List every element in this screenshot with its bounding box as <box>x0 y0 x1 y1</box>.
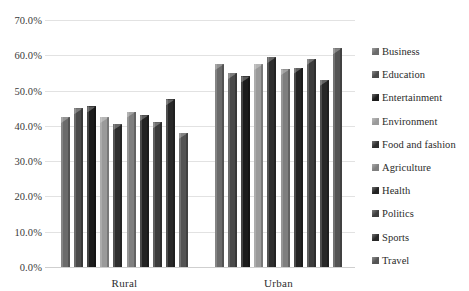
bar-group-urban: Urban <box>213 20 344 267</box>
bar <box>267 57 276 267</box>
legend-label: Agriculture <box>382 162 431 173</box>
legend-label: Education <box>382 69 425 80</box>
legend-swatch-icon <box>372 187 379 194</box>
bars <box>213 20 344 267</box>
y-axis-tick-label: 70.0% <box>14 15 42 26</box>
legend-label: Food and fashion <box>382 139 456 150</box>
bar <box>87 106 96 267</box>
legend-swatch-icon <box>372 257 379 264</box>
bar <box>307 59 316 267</box>
legend-item[interactable]: Education <box>372 63 469 86</box>
legend-item[interactable]: Entertainment <box>372 86 469 109</box>
bar <box>61 117 70 267</box>
bar <box>100 117 109 267</box>
legend-swatch-icon <box>372 71 379 78</box>
bar <box>179 133 188 267</box>
bar <box>294 68 303 267</box>
legend-swatch-icon <box>372 164 379 171</box>
y-axis-tick-label: 10.0% <box>14 226 42 237</box>
legend-label: Entertainment <box>382 92 442 103</box>
y-axis-tick-labels: 70.0%60.0%50.0%40.0%30.0%20.0%10.0%0.0% <box>0 0 44 291</box>
bar <box>215 64 224 267</box>
plot-area: RuralUrban <box>45 20 355 267</box>
x-axis-category-label: Urban <box>213 277 344 289</box>
legend-item[interactable]: Travel <box>372 249 469 272</box>
legend-label: Politics <box>382 208 414 219</box>
y-axis-tick-label: 0.0% <box>20 262 42 273</box>
legend-swatch-icon <box>372 48 379 55</box>
bar <box>74 108 83 267</box>
y-axis-tick-label: 60.0% <box>14 50 42 61</box>
legend-swatch-icon <box>372 118 379 125</box>
legend-label: Environment <box>382 116 437 127</box>
bar <box>153 122 162 267</box>
bar <box>254 64 263 267</box>
legend: BusinessEducationEntertainmentEnvironmen… <box>372 40 469 272</box>
legend-item[interactable]: Sports <box>372 226 469 249</box>
legend-label: Health <box>382 185 410 196</box>
bar-groups: RuralUrban <box>45 20 355 267</box>
bar <box>140 115 149 267</box>
axis-baseline <box>45 267 355 268</box>
legend-item[interactable]: Agriculture <box>372 156 469 179</box>
bar-chart: 70.0%60.0%50.0%40.0%30.0%20.0%10.0%0.0% … <box>0 0 469 291</box>
legend-item[interactable]: Food and fashion <box>372 133 469 156</box>
bar <box>166 99 175 267</box>
bar-group-rural: Rural <box>59 20 190 267</box>
legend-label: Travel <box>382 255 409 266</box>
bar <box>127 112 136 267</box>
y-axis-tick-label: 30.0% <box>14 156 42 167</box>
legend-label: Sports <box>382 232 409 243</box>
legend-label: Business <box>382 46 420 57</box>
y-axis-tick-label: 40.0% <box>14 120 42 131</box>
bar <box>281 69 290 267</box>
bar <box>228 73 237 267</box>
bar <box>333 48 342 267</box>
legend-swatch-icon <box>372 234 379 241</box>
legend-swatch-icon <box>372 94 379 101</box>
x-axis-category-label: Rural <box>59 277 190 289</box>
y-axis-tick-label: 20.0% <box>14 191 42 202</box>
legend-item[interactable]: Health <box>372 179 469 202</box>
legend-item[interactable]: Environment <box>372 110 469 133</box>
y-axis-tick-label: 50.0% <box>14 85 42 96</box>
bar <box>113 124 122 267</box>
legend-swatch-icon <box>372 141 379 148</box>
bar <box>320 80 329 267</box>
bar <box>241 76 250 267</box>
legend-item[interactable]: Politics <box>372 202 469 225</box>
legend-item[interactable]: Business <box>372 40 469 63</box>
bars <box>59 20 190 267</box>
legend-swatch-icon <box>372 210 379 217</box>
